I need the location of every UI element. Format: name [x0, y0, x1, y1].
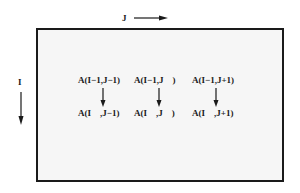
dependency-arrows-layer [0, 0, 300, 193]
down-arrow-icon [101, 88, 106, 107]
cell-bottom-right: A(I ,J+1) [192, 108, 233, 118]
down-arrow-icon [157, 88, 162, 107]
cell-bottom-left: A(I ,J−1) [78, 108, 119, 118]
cell-bottom-middle: A(I ,J ) [134, 108, 175, 118]
down-arrow-icon [214, 88, 219, 107]
